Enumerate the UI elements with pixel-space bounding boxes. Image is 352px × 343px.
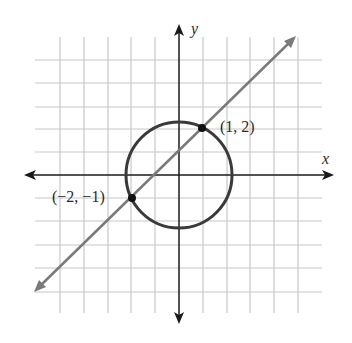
y-axis-label: y (191, 20, 198, 38)
point-1-2 (198, 124, 206, 132)
line-curve (34, 36, 296, 292)
graph (0, 0, 352, 343)
y-axis (174, 24, 184, 324)
point-1-2-label: (1, 2) (220, 118, 255, 136)
x-axis-label: x (322, 150, 329, 168)
point-neg2-neg1 (128, 194, 136, 202)
point-neg2-neg1-label: (−2, −1) (52, 188, 105, 206)
